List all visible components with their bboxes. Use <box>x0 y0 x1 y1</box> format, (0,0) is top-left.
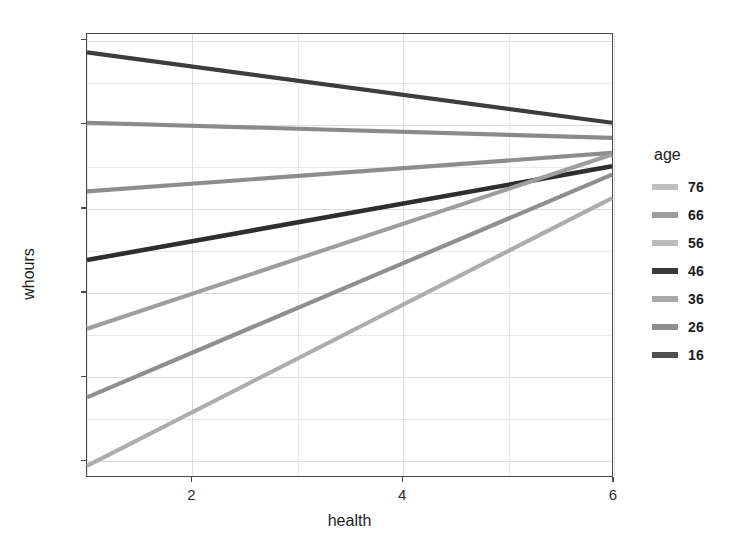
legend-item-label: 26 <box>688 319 704 335</box>
legend-item-76[interactable]: 76 <box>652 173 736 201</box>
legend-swatch-icon <box>652 212 678 218</box>
legend-swatch-icon <box>652 296 678 302</box>
legend-item-label: 36 <box>688 291 704 307</box>
legend-swatch-icon <box>652 268 678 274</box>
series-line-age-16 <box>87 52 612 122</box>
x-tick-label: 4 <box>398 486 406 503</box>
x-tick-label: 2 <box>187 486 195 503</box>
legend-item-label: 76 <box>688 179 704 195</box>
legend-item-36[interactable]: 36 <box>652 285 736 313</box>
x-tick-mark <box>402 477 403 482</box>
series-line-age-76 <box>87 198 612 466</box>
chart-canvas: whours -505101520 246 health age 7666564… <box>0 0 738 547</box>
legend-item-46[interactable]: 46 <box>652 257 736 285</box>
legend-item-label: 56 <box>688 235 704 251</box>
legend-item-56[interactable]: 56 <box>652 229 736 257</box>
x-tick-label: 6 <box>609 486 617 503</box>
legend-item-label: 46 <box>688 263 704 279</box>
series-line-age-56 <box>87 155 612 329</box>
legend-swatch-icon <box>652 324 678 330</box>
series-line-age-66 <box>87 175 612 398</box>
x-axis-label: health <box>86 512 613 530</box>
legend-item-label: 16 <box>688 347 704 363</box>
y-axis-label: whours <box>20 248 38 300</box>
x-tick-mark <box>612 477 613 482</box>
legend-swatch-icon <box>652 240 678 246</box>
legend-item-label: 66 <box>688 207 704 223</box>
legend-item-26[interactable]: 26 <box>652 313 736 341</box>
legend-swatch-icon <box>652 184 678 190</box>
plot-panel <box>86 33 613 477</box>
legend-title: age <box>652 146 736 164</box>
series-lines <box>87 34 612 476</box>
gridline-vertical <box>614 34 615 476</box>
legend-items: 76665646362616 <box>652 173 736 369</box>
legend-item-66[interactable]: 66 <box>652 201 736 229</box>
series-line-age-36 <box>87 153 612 192</box>
series-line-age-26 <box>87 123 612 138</box>
x-tick-mark <box>191 477 192 482</box>
legend-item-16[interactable]: 16 <box>652 341 736 369</box>
legend-swatch-icon <box>652 352 678 358</box>
legend: age 76665646362616 <box>652 146 736 369</box>
